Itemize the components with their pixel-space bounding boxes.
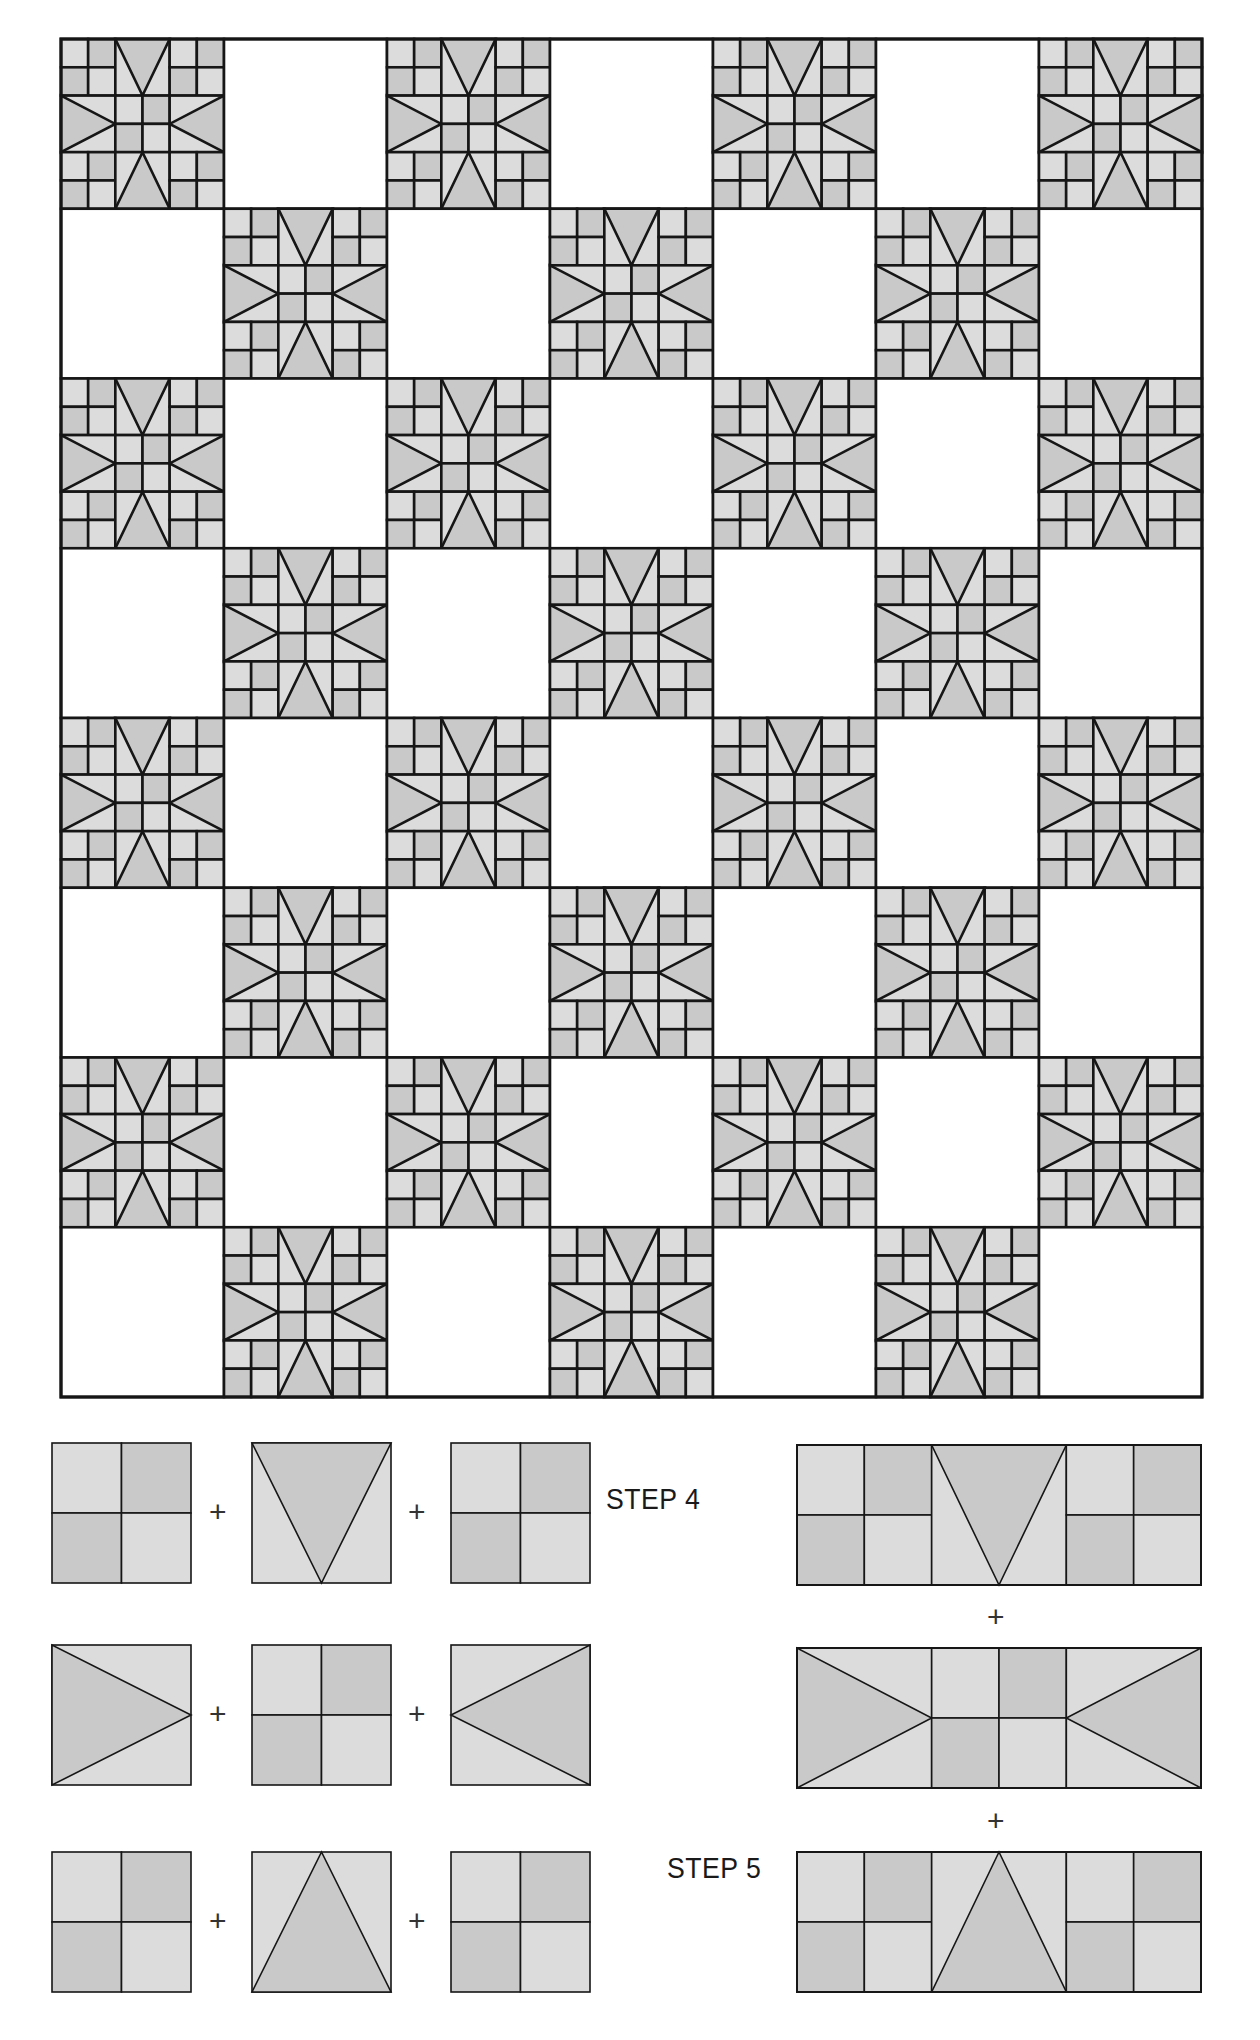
- plain-block: [224, 379, 387, 549]
- unit-fourpatch: [52, 1852, 191, 1992]
- quilt-diagram: [0, 0, 1260, 2040]
- unit-right-arrow: [52, 1645, 191, 1785]
- plain-block: [550, 1058, 713, 1228]
- plain-block: [224, 718, 387, 888]
- star-block: [224, 209, 387, 379]
- star-block: [1039, 39, 1202, 209]
- star-block: [1039, 379, 1202, 549]
- plain-block: [387, 1227, 550, 1397]
- step-units: [52, 1443, 590, 1992]
- unit-v-triangle: [252, 1443, 391, 1583]
- star-block: [876, 888, 1039, 1058]
- plain-block: [713, 888, 876, 1058]
- star-block: [1039, 1058, 1202, 1228]
- plain-block: [387, 888, 550, 1058]
- plus-sign: +: [408, 1497, 426, 1527]
- plain-block: [876, 1058, 1039, 1228]
- star-block: [61, 718, 224, 888]
- star-block: [550, 209, 713, 379]
- star-block: [876, 209, 1039, 379]
- plain-block: [876, 39, 1039, 209]
- star-block: [224, 548, 387, 718]
- star-block: [387, 39, 550, 209]
- unit-fourpatch: [451, 1443, 590, 1583]
- assembled-rows: [797, 1445, 1201, 1992]
- star-block: [713, 379, 876, 549]
- star-block: [550, 548, 713, 718]
- plain-block: [550, 718, 713, 888]
- star-block: [387, 718, 550, 888]
- star-block: [713, 39, 876, 209]
- plain-block: [387, 209, 550, 379]
- plain-block: [224, 39, 387, 209]
- plain-block: [876, 718, 1039, 888]
- unit-fourpatch: [451, 1852, 590, 1992]
- star-block: [387, 1058, 550, 1228]
- step-5-label: STEP 5: [667, 1852, 761, 1885]
- star-block: [713, 1058, 876, 1228]
- star-block: [61, 39, 224, 209]
- unit-fourpatch: [52, 1443, 191, 1583]
- plain-block: [550, 39, 713, 209]
- plain-block: [61, 1227, 224, 1397]
- plus-sign: +: [209, 1699, 227, 1729]
- star-block: [713, 718, 876, 888]
- assembled-row-1: [797, 1445, 1201, 1585]
- assembled-row-2: [797, 1648, 1201, 1788]
- star-block: [224, 888, 387, 1058]
- plain-block: [876, 379, 1039, 549]
- quilt-top: [61, 39, 1202, 1397]
- star-block: [224, 1227, 387, 1397]
- star-block: [61, 1058, 224, 1228]
- star-block: [61, 379, 224, 549]
- plain-block: [550, 379, 713, 549]
- step-4-label: STEP 4: [606, 1483, 700, 1516]
- plain-block: [713, 1227, 876, 1397]
- unit-a-triangle: [252, 1852, 391, 1992]
- star-block: [550, 1227, 713, 1397]
- plain-block: [387, 548, 550, 718]
- plain-block: [1039, 209, 1202, 379]
- star-block: [876, 548, 1039, 718]
- plain-block: [713, 548, 876, 718]
- star-block: [876, 1227, 1039, 1397]
- plain-block: [1039, 1227, 1202, 1397]
- plus-sign: +: [408, 1699, 426, 1729]
- plain-block: [61, 209, 224, 379]
- star-block: [387, 379, 550, 549]
- plain-block: [1039, 548, 1202, 718]
- plain-block: [61, 548, 224, 718]
- star-block: [550, 888, 713, 1058]
- unit-left-arrow: [451, 1645, 590, 1785]
- plus-sign: +: [987, 1806, 1005, 1836]
- assembled-row-3: [797, 1852, 1201, 1992]
- unit-fourpatch: [252, 1645, 391, 1785]
- star-block: [1039, 718, 1202, 888]
- plain-block: [61, 888, 224, 1058]
- plain-block: [713, 209, 876, 379]
- plus-sign: +: [987, 1602, 1005, 1632]
- plus-sign: +: [209, 1497, 227, 1527]
- plus-sign: +: [209, 1906, 227, 1936]
- plain-block: [1039, 888, 1202, 1058]
- plain-block: [224, 1058, 387, 1228]
- plus-sign: +: [408, 1906, 426, 1936]
